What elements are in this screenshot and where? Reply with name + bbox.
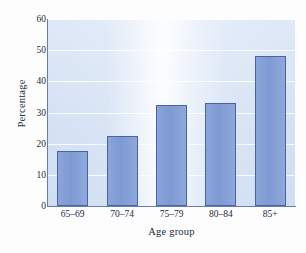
bar xyxy=(107,136,138,206)
x-axis-tick-label: 65–69 xyxy=(61,209,85,219)
x-axis-tick-labels: 65–6970–7475–7980–8485+ xyxy=(48,209,295,225)
y-axis-tick-label: 0 xyxy=(41,201,46,211)
x-axis-tick-label: 70–74 xyxy=(110,209,134,219)
y-axis-line xyxy=(47,19,48,207)
gridline xyxy=(48,19,295,20)
x-axis-line xyxy=(47,206,296,207)
plot-area xyxy=(48,19,295,206)
y-axis-tick-label: 10 xyxy=(37,170,47,180)
gridline xyxy=(48,50,295,51)
bar xyxy=(255,56,286,206)
y-axis-tick-label: 20 xyxy=(37,139,47,149)
y-axis-tick-label: 60 xyxy=(37,14,47,24)
x-axis-tick-label: 75–79 xyxy=(160,209,184,219)
bar xyxy=(57,151,88,206)
bar xyxy=(156,105,187,206)
y-axis-tick-labels: 0102030405060 xyxy=(26,0,46,253)
x-axis-title: Age group xyxy=(48,226,295,237)
y-axis-tick-label: 40 xyxy=(37,76,47,86)
y-axis-title-text: Percentage xyxy=(16,79,27,127)
bar-chart-figure: Percentage 0102030405060 65–6970–7475–79… xyxy=(0,0,306,253)
y-axis-tick-label: 30 xyxy=(37,108,47,118)
y-axis-tick-label: 50 xyxy=(37,45,47,55)
x-axis-tick-label: 80–84 xyxy=(209,209,233,219)
bar xyxy=(205,103,236,206)
x-axis-tick-label: 85+ xyxy=(263,209,278,219)
